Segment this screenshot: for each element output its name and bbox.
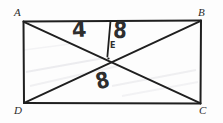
altitude-segment-to-E [107,21,110,57]
vertex-label-c: C [199,105,206,116]
vertex-label-b: B [198,7,205,18]
side-BC [201,21,202,104]
side-AB [24,21,202,22]
point-label-e: E [110,42,115,50]
vertex-label-d: D [14,105,22,116]
figure-canvas [0,0,223,123]
measurement-label-upper-right: 8 [112,19,127,43]
side-CD [24,103,201,104]
side-DA [24,22,25,104]
geometry-figure: A B C D 4 8 8 E [0,0,223,123]
intersection-point-E [107,57,109,59]
vertex-label-a: A [14,7,21,18]
measurement-label-upper-left: 4 [71,20,86,42]
